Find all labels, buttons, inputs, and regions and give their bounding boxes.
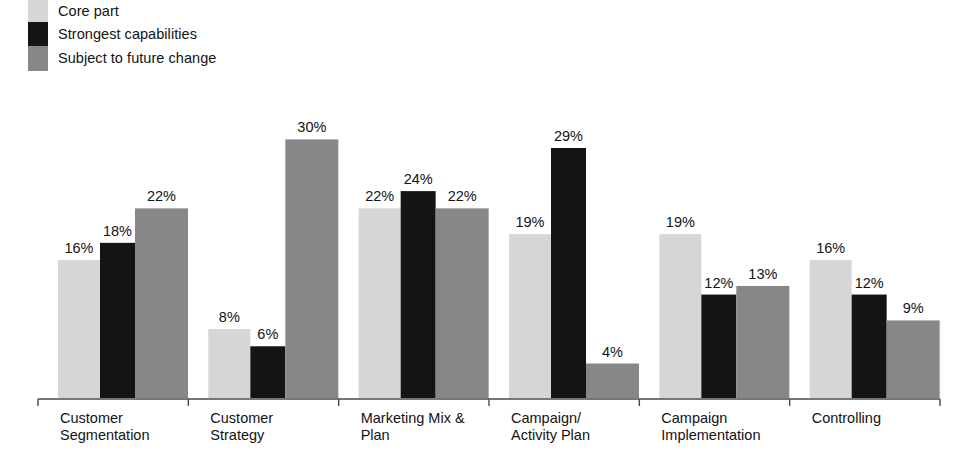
bar-value-label: 19% (666, 214, 695, 230)
bar (58, 260, 100, 398)
bar (810, 260, 852, 398)
category-label: Campaign/ (511, 410, 582, 426)
bar (659, 234, 701, 398)
x-axis (38, 399, 940, 406)
bar-value-label: 22% (448, 188, 477, 204)
bar-value-label: 16% (64, 240, 93, 256)
bar-value-label: 29% (554, 128, 583, 144)
bar (359, 208, 401, 398)
category-label: Segmentation (60, 427, 149, 443)
bar-value-label: 22% (365, 188, 394, 204)
bar (135, 208, 188, 398)
bar (250, 346, 285, 398)
bar (100, 243, 135, 398)
bar-value-label: 16% (816, 240, 845, 256)
value-labels-layer: 16%18%22%8%6%30%22%24%22%19%29%4%19%12%1… (64, 119, 923, 359)
category-label: Campaign (661, 410, 727, 426)
bar (736, 286, 789, 398)
bar (208, 329, 250, 398)
bar (887, 320, 940, 398)
bar-value-label: 12% (704, 275, 733, 291)
bar-value-label: 4% (602, 344, 623, 360)
bar-value-label: 19% (515, 214, 544, 230)
bar-chart: Core part Strongest capabilities Subject… (0, 0, 969, 459)
plot-area: 16%18%22%8%6%30%22%24%22%19%29%4%19%12%1… (0, 0, 969, 459)
category-labels-layer: CustomerSegmentationCustomerStrategyMark… (60, 410, 881, 443)
category-label: Implementation (661, 427, 760, 443)
category-label: Customer (210, 410, 273, 426)
bar (701, 295, 736, 398)
bar (852, 295, 887, 398)
category-label: Activity Plan (511, 427, 590, 443)
bar-value-label: 8% (219, 309, 240, 325)
bar (586, 364, 639, 398)
bar-value-label: 6% (257, 326, 278, 342)
bar-value-label: 22% (147, 188, 176, 204)
bar (436, 208, 489, 398)
category-label: Controlling (812, 410, 881, 426)
bar-value-label: 13% (748, 266, 777, 282)
category-label: Marketing Mix & (361, 410, 465, 426)
bar (401, 191, 436, 398)
plot-svg: 16%18%22%8%6%30%22%24%22%19%29%4%19%12%1… (0, 0, 969, 459)
category-label: Strategy (210, 427, 265, 443)
category-label: Customer (60, 410, 123, 426)
bar (509, 234, 551, 398)
bar-value-label: 9% (903, 300, 924, 316)
bar (285, 139, 338, 398)
bar-value-label: 30% (297, 119, 326, 135)
category-label: Plan (361, 427, 390, 443)
bars-layer (58, 139, 940, 398)
bar-value-label: 12% (855, 275, 884, 291)
bar-value-label: 24% (404, 171, 433, 187)
bar-value-label: 18% (103, 223, 132, 239)
bar (551, 148, 586, 398)
